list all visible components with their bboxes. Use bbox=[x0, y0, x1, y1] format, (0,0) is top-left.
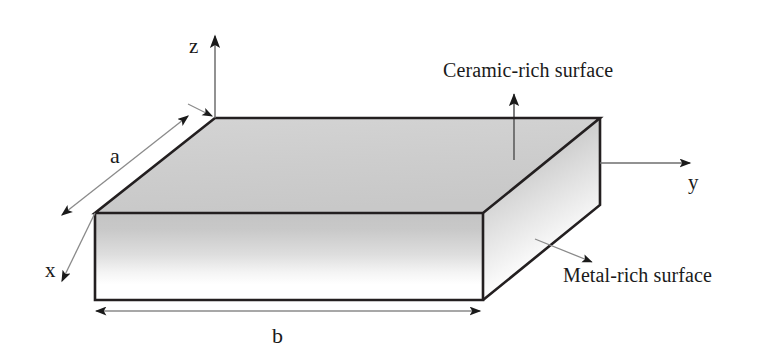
axis-x bbox=[62, 213, 95, 281]
metal-rich-surface-label: Metal-rich surface bbox=[563, 265, 712, 285]
axis-label-x: x bbox=[45, 260, 56, 281]
axis-label-y: y bbox=[688, 172, 699, 193]
ceramic-rich-surface-label: Ceramic-rich surface bbox=[443, 60, 613, 80]
dimension-label-b: b bbox=[272, 325, 283, 347]
origin-corner-marker bbox=[188, 104, 212, 116]
axis-label-z: z bbox=[189, 36, 198, 57]
plate-front-face bbox=[95, 213, 483, 300]
dimension-label-a: a bbox=[110, 145, 120, 167]
plate-diagram bbox=[0, 0, 763, 361]
